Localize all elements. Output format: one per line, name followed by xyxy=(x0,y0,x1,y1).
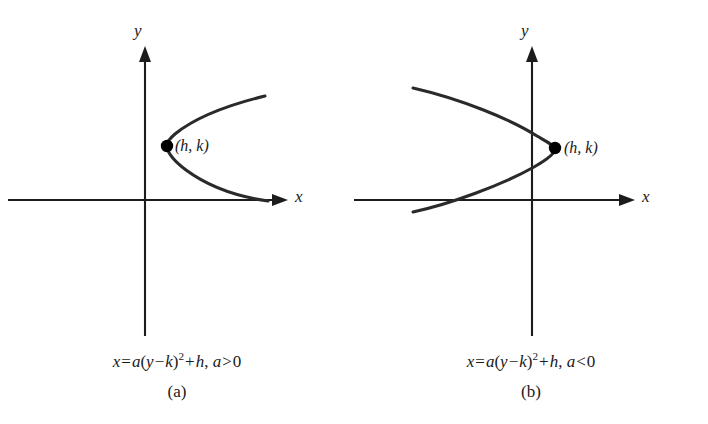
vertex-dot-a xyxy=(161,140,173,152)
equation-a-condition-operator: > xyxy=(221,352,233,371)
equation-b-condition-value: 0 xyxy=(587,352,596,371)
parabola-curve-b xyxy=(413,88,555,212)
equation-a-plus: + xyxy=(184,352,196,371)
y-axis-label-a: y xyxy=(134,22,142,39)
equation-b-equals: = xyxy=(474,352,486,371)
equation-b: x=a(y−k)2+h, a<0 xyxy=(354,352,708,372)
equation-b-condition-variable: a xyxy=(567,352,576,371)
panel-b-plot xyxy=(354,0,708,350)
vertex-dot-b xyxy=(549,142,561,154)
equation-b-constant: h xyxy=(550,352,559,371)
equation-b-comma: , xyxy=(558,352,562,371)
panel-b: y x (h, k) x=a(y−k)2+h, a<0 (b) xyxy=(354,0,708,424)
x-axis-arrowhead-a xyxy=(272,194,288,206)
equation-a: x=a(y−k)2+h, a>0 xyxy=(0,352,354,372)
caption-a: (a) xyxy=(0,382,354,402)
panel-a-plot xyxy=(0,0,354,350)
equation-b-plus: + xyxy=(538,352,550,371)
equation-a-constant: h xyxy=(196,352,205,371)
equation-a-comma: , xyxy=(204,352,208,371)
equation-b-variable: y xyxy=(500,352,508,371)
equation-b-minus: − xyxy=(508,352,520,371)
panel-a: y x (h, k) x=a(y−k)2+h, a>0 (a) xyxy=(0,0,354,424)
vertex-label-b: (h, k) xyxy=(564,140,598,156)
x-axis-label-b: x xyxy=(642,188,650,205)
y-axis-label-b: y xyxy=(521,22,529,39)
equation-a-condition-variable: a xyxy=(213,352,222,371)
equation-b-shift: k xyxy=(519,352,527,371)
equation-a-minus: − xyxy=(154,352,166,371)
vertex-label-a: (h, k) xyxy=(175,138,209,154)
equation-a-shift: k xyxy=(165,352,173,371)
x-axis-label-a: x xyxy=(295,188,303,205)
y-axis-arrowhead-b xyxy=(526,46,538,62)
figure-root: y x (h, k) x=a(y−k)2+h, a>0 (a) y x (h, … xyxy=(0,0,708,424)
x-axis-arrowhead-b xyxy=(619,194,635,206)
equation-b-condition-operator: < xyxy=(575,352,587,371)
equation-a-condition-value: 0 xyxy=(233,352,242,371)
y-axis-arrowhead-a xyxy=(139,46,151,62)
equation-a-variable: y xyxy=(146,352,154,371)
caption-b: (b) xyxy=(354,382,708,402)
equation-a-equals: = xyxy=(120,352,132,371)
